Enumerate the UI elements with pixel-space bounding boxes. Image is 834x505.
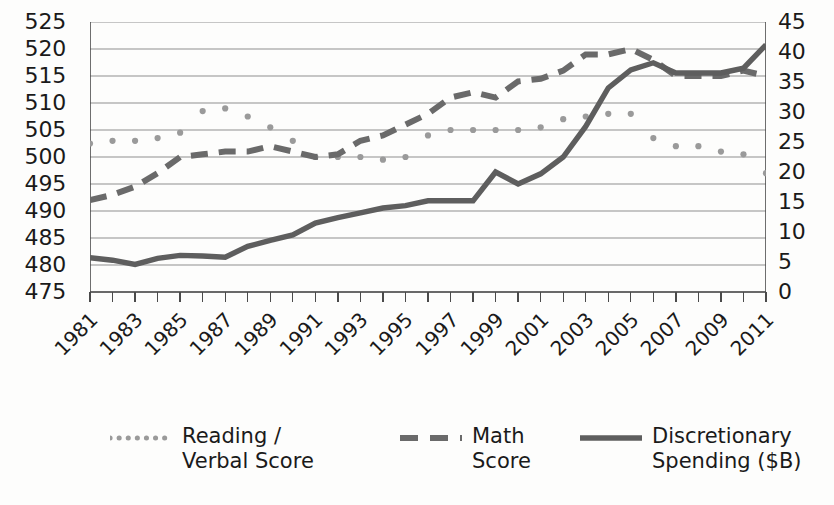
data-point — [763, 170, 766, 176]
data-point — [380, 157, 386, 163]
left-axis-tick-500: 500 — [25, 146, 66, 168]
data-point — [628, 111, 634, 117]
data-point — [673, 143, 679, 149]
left-axis-tick-510: 510 — [25, 92, 66, 114]
data-point — [177, 130, 183, 136]
left-axis-tick-labels: 525520515510505500495490485480475 — [4, 0, 66, 320]
data-point — [538, 124, 544, 130]
legend-label-0: Reading / Verbal Score — [182, 424, 314, 474]
right-axis-tick-10: 10 — [778, 221, 806, 243]
chart-svg — [90, 22, 766, 294]
left-axis-tick-515: 515 — [25, 65, 66, 87]
data-point — [290, 138, 296, 144]
data-point — [222, 105, 228, 111]
plot-area — [90, 22, 766, 292]
data-point — [695, 143, 701, 149]
data-point — [267, 124, 273, 130]
right-axis-tick-labels: 454035302520151050 — [778, 0, 834, 320]
data-point — [470, 127, 476, 133]
data-point — [425, 132, 431, 138]
data-point — [560, 116, 566, 122]
data-point — [357, 154, 363, 160]
data-point — [109, 138, 115, 144]
data-point — [132, 138, 138, 144]
data-point — [90, 140, 93, 146]
legend-swatch-solid — [580, 426, 642, 450]
chart-legend: Reading / Verbal ScoreMath ScoreDiscreti… — [0, 412, 834, 492]
legend-label-1: Math Score — [472, 424, 531, 474]
data-point — [155, 135, 161, 141]
data-point — [493, 127, 499, 133]
legend-item-2[interactable]: Discretionary Spending ($B) — [580, 424, 802, 474]
data-point — [515, 127, 521, 133]
right-axis-tick-25: 25 — [778, 131, 806, 153]
right-axis-tick-40: 40 — [778, 41, 806, 63]
left-axis-tick-505: 505 — [25, 119, 66, 141]
right-axis-tick-5: 5 — [778, 251, 792, 273]
right-axis-tick-30: 30 — [778, 101, 806, 123]
data-point — [718, 149, 724, 155]
legend-swatch-dashed — [400, 426, 462, 450]
data-point — [402, 154, 408, 160]
right-axis-tick-15: 15 — [778, 191, 806, 213]
left-axis-tick-520: 520 — [25, 38, 66, 60]
data-point — [245, 113, 251, 119]
left-axis-tick-490: 490 — [25, 200, 66, 222]
data-point — [650, 135, 656, 141]
legend-label-2: Discretionary Spending ($B) — [652, 424, 802, 474]
x-axis-tick-labels: 1981198319851987198919911993199519971999… — [0, 300, 834, 400]
data-point — [740, 151, 746, 157]
right-axis-tick-45: 45 — [778, 11, 806, 33]
left-axis-tick-480: 480 — [25, 254, 66, 276]
left-axis-tick-485: 485 — [25, 227, 66, 249]
chart-container: 525520515510505500495490485480475 454035… — [0, 0, 834, 505]
left-axis-tick-495: 495 — [25, 173, 66, 195]
data-point — [200, 108, 206, 114]
series-line-1 — [90, 49, 766, 200]
data-point — [605, 111, 611, 117]
left-axis-tick-525: 525 — [25, 11, 66, 33]
legend-swatch-dotted — [110, 426, 172, 450]
right-axis-tick-35: 35 — [778, 71, 806, 93]
legend-item-0[interactable]: Reading / Verbal Score — [110, 424, 314, 474]
right-axis-tick-20: 20 — [778, 161, 806, 183]
data-point — [447, 127, 453, 133]
legend-item-1[interactable]: Math Score — [400, 424, 531, 474]
